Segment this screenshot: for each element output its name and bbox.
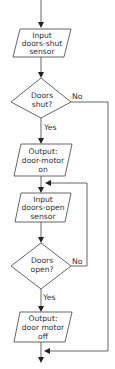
output-door-motor-on-node: Output: door-motor on: [14, 144, 72, 176]
decision-doors-open-node: Doors open?: [11, 243, 71, 289]
decision-doors-shut-yes-branch: Yes: [38, 118, 57, 144]
arrow-in2-dec2: [38, 222, 44, 243]
decision-doors-open-yes-branch: Yes: [38, 289, 56, 312]
decision-doors-shut-line-1: Doors: [31, 91, 53, 100]
input-doors-shut-node: Input doors-shut sensor: [13, 29, 71, 57]
decision-doors-shut-node: Doors shut?: [11, 78, 71, 118]
output-door-motor-on-line-2: door-motor: [22, 156, 65, 165]
input-doors-shut-line-3: sensor: [29, 47, 55, 56]
input-doors-open-line-3: sensor: [30, 212, 56, 221]
decision-doors-shut-no-label: No: [72, 92, 83, 101]
decision-doors-open-line-1: Doors: [31, 256, 53, 265]
decision-doors-open-line-2: open?: [31, 265, 54, 274]
decision-doors-open-yes-label: Yes: [42, 293, 56, 302]
flowchart: Input doors-shut sensor Doors shut? No Y…: [0, 0, 115, 369]
start-arrow: [38, 0, 44, 28]
decision-doors-shut-line-2: shut?: [32, 100, 53, 109]
output-door-motor-off-line-1: Output:: [29, 314, 58, 323]
decision-doors-open-no-label: No: [72, 257, 83, 266]
input-doors-open-node: Input doors-open sensor: [15, 193, 71, 222]
flowchart-canvas: Input doors-shut sensor Doors shut? No Y…: [0, 0, 115, 369]
input-doors-open-line-2: doors-open: [21, 203, 64, 212]
output-door-motor-off-node: Output: door motor off: [14, 312, 72, 342]
output-door-motor-on-line-1: Output:: [29, 147, 58, 156]
output-door-motor-on-line-3: on: [38, 165, 48, 174]
decision-doors-shut-yes-label: Yes: [43, 123, 57, 132]
end-arrow: [38, 342, 44, 363]
arrow-in1-dec1: [38, 57, 44, 78]
output-door-motor-off-line-3: off: [38, 332, 49, 341]
arrow-out1-in2: [38, 176, 44, 193]
output-door-motor-off-line-2: door motor: [22, 323, 65, 332]
